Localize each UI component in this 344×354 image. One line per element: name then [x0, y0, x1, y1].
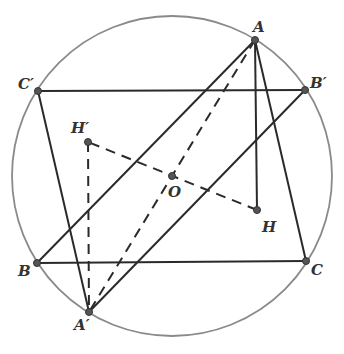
point-c	[303, 258, 310, 265]
point-b1	[302, 87, 309, 94]
point-c1	[35, 88, 42, 95]
label-o: O	[168, 183, 181, 201]
points	[34, 37, 310, 316]
point-h1	[85, 139, 92, 146]
point-b	[34, 260, 41, 267]
label-c1: C′	[18, 75, 34, 93]
label-b: B	[17, 262, 31, 280]
geometry-diagram: A B C A′ B′ C′ H H′ O	[0, 0, 344, 354]
segment-b1c1	[38, 90, 305, 91]
label-h1: H′	[70, 119, 89, 137]
label-a1: A′	[72, 316, 90, 334]
label-a: A	[251, 18, 265, 36]
point-o	[169, 173, 176, 180]
segment-a1b1	[89, 90, 305, 312]
label-h: H	[261, 218, 277, 236]
point-a1	[86, 309, 93, 316]
diagram-canvas: A B C A′ B′ C′ H H′ O	[0, 0, 344, 354]
segment-ah	[255, 40, 257, 210]
point-h	[254, 207, 261, 214]
segment-h1a1	[88, 142, 89, 312]
label-c: C	[311, 261, 323, 279]
label-b1: B′	[309, 74, 327, 92]
point-a	[252, 37, 259, 44]
